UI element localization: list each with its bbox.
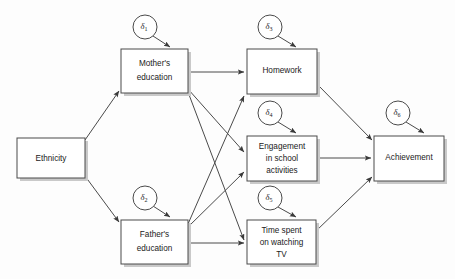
node-homework-label-line-0: Homework bbox=[262, 66, 302, 75]
node-mothers-education-label-line-0: Mother's bbox=[139, 59, 170, 68]
error-term-d5[interactable]: δ5 bbox=[258, 186, 282, 210]
error-term-d6[interactable]: δ6 bbox=[386, 101, 410, 125]
edge-mothers-education-to-engagement bbox=[188, 89, 244, 152]
node-ethnicity-label-line-0: Ethnicity bbox=[36, 154, 68, 163]
error-term-d3[interactable]: δ3 bbox=[258, 15, 282, 39]
edge-time-tv-to-achievement bbox=[316, 177, 372, 231]
node-fathers-education-label-line-0: Father's bbox=[140, 230, 169, 239]
node-mothers-education-label-line-1: education bbox=[137, 73, 173, 82]
node-fathers-education-box[interactable] bbox=[121, 220, 188, 264]
node-fathers-education[interactable]: Father's education bbox=[121, 220, 191, 267]
node-time-tv-label-line-0: Time spent bbox=[261, 226, 302, 235]
edge-homework-to-achievement bbox=[317, 84, 372, 140]
error-term-d1[interactable]: δ1 bbox=[133, 15, 157, 39]
node-time-tv-label-line-2: TV bbox=[276, 250, 287, 259]
node-mothers-education[interactable]: Mother's education bbox=[121, 49, 191, 96]
error-term-d2[interactable]: δ2 bbox=[133, 186, 157, 210]
node-time-tv[interactable]: Time spent on watching TV bbox=[247, 220, 319, 267]
edge-d6-to-achievement bbox=[406, 122, 424, 133]
node-ethnicity[interactable]: Ethnicity bbox=[17, 138, 88, 181]
edge-d4-to-engagement bbox=[278, 122, 296, 133]
node-homework[interactable]: Homework bbox=[247, 49, 320, 97]
path-diagram-svg: Ethnicity Mother's education Father's ed… bbox=[0, 0, 455, 279]
node-layer: Ethnicity Mother's education Father's ed… bbox=[17, 49, 447, 267]
node-achievement-label-line-0: Achievement bbox=[385, 153, 433, 162]
node-engagement[interactable]: Engagement in school activities bbox=[247, 136, 320, 184]
node-achievement[interactable]: Achievement bbox=[374, 136, 447, 184]
edge-d3-to-homework bbox=[278, 36, 296, 47]
edge-d1-to-mothers-education bbox=[153, 36, 170, 47]
node-engagement-label-line-1: in school bbox=[266, 154, 298, 163]
edge-ethnicity-to-mothers-education bbox=[85, 91, 119, 140]
edge-d5-to-time-tv bbox=[278, 207, 296, 217]
node-time-tv-label-line-1: on watching bbox=[260, 238, 304, 247]
node-engagement-label-line-0: Engagement bbox=[259, 142, 306, 151]
node-engagement-label-line-2: activities bbox=[266, 166, 297, 175]
error-term-d4[interactable]: δ4 bbox=[258, 101, 282, 125]
node-mothers-education-box[interactable] bbox=[121, 49, 188, 93]
node-fathers-education-label-line-1: education bbox=[137, 244, 173, 253]
edge-d2-to-fathers-education bbox=[153, 206, 170, 217]
edge-ethnicity-to-fathers-education bbox=[85, 176, 119, 222]
path-diagram-canvas: Ethnicity Mother's education Father's ed… bbox=[0, 0, 455, 279]
